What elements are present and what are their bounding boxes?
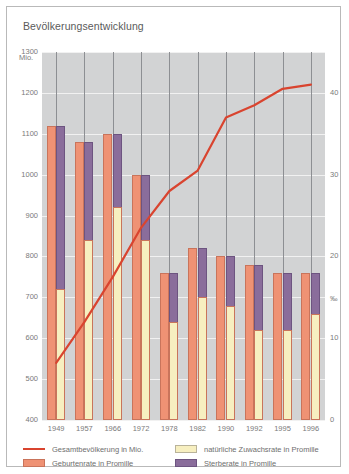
gridline-horizontal — [42, 420, 325, 421]
plot-area: 1300120011001000900800700600500400 40302… — [42, 52, 325, 420]
left-axis-tick-label: 1200 — [21, 89, 38, 97]
right-axis-tick-label: 40 — [330, 89, 338, 97]
left-axis-tick-label: 600 — [25, 334, 38, 342]
left-axis-tick-label: 1100 — [22, 130, 38, 138]
chart-panel: Bevölkerungsentwicklung 1300120011001000… — [6, 6, 341, 467]
population-polyline — [56, 85, 311, 363]
left-axis-tick-label: 900 — [25, 212, 38, 220]
legend-row: Geburtenrate in PromilleSterberate in Pr… — [23, 456, 333, 470]
right-axis-tick-label: 30 — [330, 171, 338, 179]
left-axis-tick-label: 700 — [25, 293, 38, 301]
right-axis-tick-label: 20 — [330, 252, 338, 260]
x-axis-tick-label: 1966 — [104, 425, 121, 433]
legend: Gesamtbevölkerung in Mio.natürliche Zuwa… — [23, 442, 333, 470]
legend-label: natürliche Zuwachsrate in Promille — [204, 445, 319, 454]
left-axis-tick-label: 500 — [25, 375, 38, 383]
x-axis-tick-label: 1990 — [218, 425, 235, 433]
legend-item-birth[interactable]: Geburtenrate in Promille — [23, 459, 175, 468]
left-axis-tick-label: 800 — [25, 252, 38, 260]
x-axis-tick-label: 1982 — [189, 425, 206, 433]
right-axis-tick-label: 0 — [330, 416, 334, 424]
legend-swatch-nat-icon — [175, 445, 197, 453]
population-line-series — [42, 52, 325, 420]
legend-item-nat[interactable]: natürliche Zuwachsrate in Promille — [175, 445, 327, 454]
right-axis-tick-label: 10 — [330, 334, 338, 342]
legend-item-line[interactable]: Gesamtbevölkerung in Mio. — [23, 445, 175, 454]
x-axis-tick-label: 1972 — [133, 425, 150, 433]
x-axis-tick-label: 1995 — [274, 425, 291, 433]
left-axis-tick-label: 400 — [25, 416, 38, 424]
left-axis-tick-label: 1000 — [21, 171, 38, 179]
legend-item-death[interactable]: Sterberate in Promille — [175, 459, 327, 468]
legend-label: Sterberate in Promille — [204, 459, 276, 468]
legend-swatch-birth-icon — [23, 459, 45, 467]
legend-swatch-line-icon — [23, 448, 45, 450]
x-axis-tick-label: 1996 — [303, 425, 320, 433]
x-axis-tick-label: 1949 — [48, 425, 65, 433]
x-axis-tick-label: 1978 — [161, 425, 178, 433]
left-axis-unit: Mio. — [19, 54, 33, 62]
right-axis-unit: ‰ — [330, 295, 338, 303]
x-axis-tick-label: 1957 — [76, 425, 93, 433]
x-axis-tick-label: 1992 — [246, 425, 263, 433]
legend-swatch-death-icon — [175, 459, 197, 467]
legend-label: Gesamtbevölkerung in Mio. — [52, 445, 143, 454]
legend-row: Gesamtbevölkerung in Mio.natürliche Zuwa… — [23, 442, 333, 456]
page-title: Bevölkerungsentwicklung — [23, 20, 144, 32]
legend-label: Geburtenrate in Promille — [52, 459, 133, 468]
